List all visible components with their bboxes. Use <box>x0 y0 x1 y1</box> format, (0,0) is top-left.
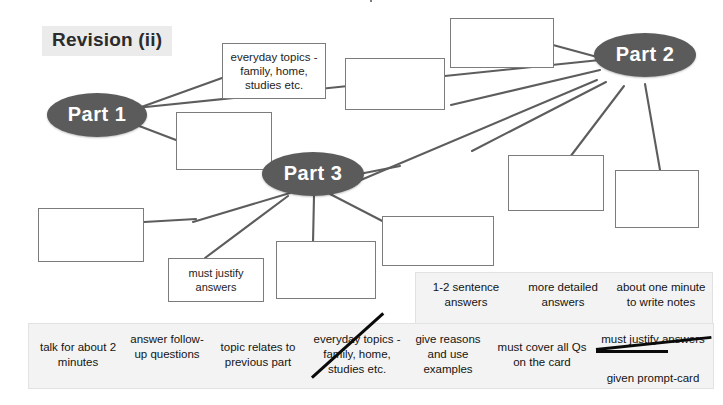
node-label: Part 3 <box>284 162 343 185</box>
summary-item[interactable]: about one minute to write notes <box>612 280 710 310</box>
summary-item-struck[interactable]: must justify answers given prompt-card <box>594 330 712 386</box>
text-box-label: everyday topics - family, home, studies … <box>227 50 321 92</box>
summary-item-label: topic relates to previous part <box>221 341 296 368</box>
text-box-label: must justify answers <box>173 266 259 294</box>
blank-box[interactable] <box>508 155 604 211</box>
blank-box[interactable] <box>450 18 554 68</box>
summary-item[interactable]: must cover all Qs on the card <box>490 330 594 370</box>
summary-item[interactable]: topic relates to previous part <box>208 330 308 370</box>
node-label: Part 1 <box>68 103 127 126</box>
summary-item-label: more detailed answers <box>528 281 598 308</box>
text-box-everyday-topics[interactable]: everyday topics - family, home, studies … <box>222 43 326 99</box>
blank-box[interactable] <box>615 170 699 228</box>
blank-box[interactable] <box>382 216 494 266</box>
summary-item[interactable]: talk for about 2 minutes <box>30 330 126 370</box>
summary-item-label-secondary: given prompt-card <box>598 371 708 386</box>
summary-item[interactable]: 1-2 sentence answers <box>418 280 514 310</box>
summary-item-label: everyday topics - family, home, studies … <box>314 333 401 375</box>
summary-item-label: about one minute to write notes <box>617 281 706 308</box>
node-part-2[interactable]: Part 2 <box>594 33 696 77</box>
mind-map-canvas: Revision (ii) everyday topics - family, … <box>0 0 723 405</box>
summary-item[interactable]: answer follow-up questions <box>126 330 208 362</box>
node-part-3[interactable]: Part 3 <box>262 152 364 196</box>
blank-box[interactable] <box>370 0 372 2</box>
summary-item-struck[interactable]: everyday topics - family, home, studies … <box>308 330 406 377</box>
page-title: Revision (ii) <box>42 26 172 56</box>
summary-item-label: answer follow-up questions <box>130 333 204 360</box>
underline-mark <box>596 350 668 353</box>
summary-item[interactable]: more detailed answers <box>514 280 612 310</box>
summary-item-label: must cover all Qs on the card <box>498 341 587 368</box>
summary-item-label: 1-2 sentence answers <box>433 281 500 308</box>
summary-item-label: talk for about 2 minutes <box>40 341 116 368</box>
node-part-1[interactable]: Part 1 <box>47 93 147 137</box>
blank-box[interactable] <box>38 208 144 262</box>
text-box-must-justify[interactable]: must justify answers <box>168 258 264 302</box>
summary-item-label: give reasons and use examples <box>415 333 480 375</box>
blank-box[interactable] <box>345 58 445 110</box>
summary-panel-bottom-row: talk for about 2 minutes answer follow-u… <box>30 330 712 388</box>
blank-box[interactable] <box>276 241 376 299</box>
summary-item[interactable]: give reasons and use examples <box>406 330 490 377</box>
blank-box[interactable] <box>176 112 272 170</box>
node-label: Part 2 <box>616 43 675 66</box>
summary-item-label: must justify answers <box>601 333 705 345</box>
